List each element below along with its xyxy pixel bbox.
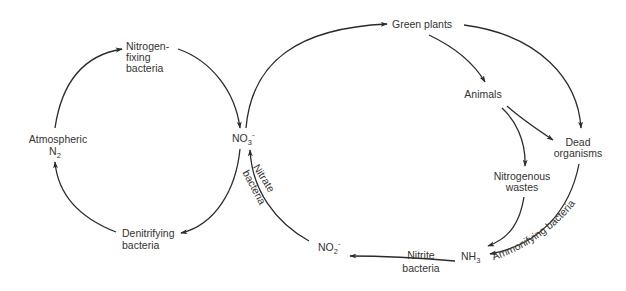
edge-fixing-to-no3 (178, 49, 240, 128)
node-dead-organisms: Dead organisms (554, 136, 602, 159)
nitrite-bacteria-line1: Nitrite (407, 249, 435, 261)
edge-no3-to-green-plants (246, 24, 387, 128)
edge-animals-to-wastes (502, 108, 525, 166)
label-nitrite-bacteria: Nitrite bacteria (402, 249, 440, 274)
node-green-plants: Green plants (392, 18, 452, 30)
label-ammonifying-bacteria: Ammonifying bacteria (490, 197, 577, 262)
n2-formula: N2 (49, 145, 61, 160)
edge-atmospheric-to-fixing (55, 49, 122, 128)
nitrite-bacteria-line2: bacteria (402, 262, 440, 274)
nh3-formula: NH3 (461, 250, 480, 265)
denitrifying-line1: Denitrifying (122, 227, 175, 239)
no3-formula: NO3- (232, 130, 255, 147)
denitrifying-line2: bacteria (122, 239, 160, 251)
animals-label: Animals (464, 88, 501, 100)
node-nitrogen-fixing-bacteria: Nitrogen- fixing bacteria (126, 40, 170, 74)
edge-green-plants-to-animals (429, 35, 485, 82)
node-no3: NO3- (232, 130, 255, 147)
nitrogen-fixing-line3: bacteria (126, 62, 164, 74)
edge-no3-to-denitrifying (181, 149, 240, 233)
green-plants-label: Green plants (392, 18, 452, 30)
nitrogenous-wastes-line2: wastes (505, 181, 539, 193)
label-nitrate-bacteria: Nitrate bacteria (240, 162, 277, 207)
node-animals: Animals (464, 88, 501, 100)
dead-organisms-line2: organisms (554, 147, 602, 159)
node-denitrifying-bacteria: Denitrifying bacteria (122, 227, 175, 251)
no2-formula: NO2- (318, 239, 341, 256)
node-no2: NO2- (318, 239, 341, 256)
node-nitrogenous-wastes: Nitrogenous wastes (494, 170, 551, 193)
ammonifying-bacteria-text: Ammonifying bacteria (490, 197, 577, 262)
nitrogen-cycle-diagram: Nitrogen- fixing bacteria Atmospheric N2… (0, 0, 626, 291)
edge-denitrifying-to-atmospheric (55, 162, 116, 232)
node-atmospheric-n2: Atmospheric N2 (29, 133, 87, 160)
atmospheric-label: Atmospheric (29, 133, 87, 145)
edge-nh3-to-no2 (350, 256, 455, 261)
node-nh3: NH3 (461, 250, 480, 265)
